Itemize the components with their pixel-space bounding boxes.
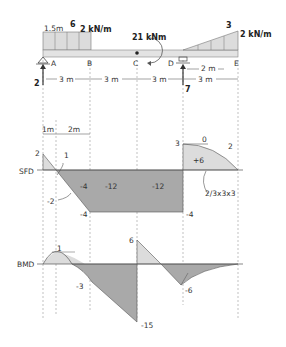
sfd-area-cd1: -12 xyxy=(105,182,117,191)
sfd-a-top: 2 xyxy=(35,149,40,158)
udl-intensity-label: 2 kN/m xyxy=(80,25,112,34)
bmd-max-pos: 1 xyxy=(57,244,62,253)
sfd-area-1: 1 xyxy=(64,151,69,160)
sfd-area-de: +6 xyxy=(193,156,204,165)
point-c-label: C xyxy=(133,59,138,68)
triangular-length-label: 2 m xyxy=(201,64,215,73)
sfd-dim-1m: 1m xyxy=(42,125,54,134)
triangular-load xyxy=(183,31,238,50)
bmd-diagram xyxy=(37,240,243,322)
bmd-c-bottom: -15 xyxy=(141,321,153,330)
sfd-parabola-note: 2/3x3x3 xyxy=(205,189,236,198)
sfd-slope-zero: 0 xyxy=(202,135,207,144)
point-d-label: D xyxy=(168,59,174,68)
sfd-diagram xyxy=(37,134,243,212)
bmd-b-value: -3 xyxy=(76,282,84,291)
sfd-area-cd2: -12 xyxy=(152,182,164,191)
beam-diagram: 1.5m 6 2 kN/m 21 kNm 3 2 kN/m A B C D E … xyxy=(0,0,286,347)
bmd-title: BMD xyxy=(17,260,35,269)
beam-body xyxy=(43,50,238,57)
point-c-marker xyxy=(135,51,139,55)
triangular-intensity-label: 2 kN/m xyxy=(240,30,272,39)
udl-resultant-label: 6 xyxy=(70,20,76,29)
sfd-area-bc: -4 xyxy=(80,182,88,191)
sfd-d-bottom: -4 xyxy=(186,210,194,219)
sfd-dim-2m: 2m xyxy=(68,125,80,134)
point-e-label: E xyxy=(234,59,239,68)
span-1-label: 3 m xyxy=(59,75,73,84)
span-4-label: 3 m xyxy=(198,75,212,84)
sfd-title: SFD xyxy=(19,167,34,176)
udl-length-label: 1.5m xyxy=(44,24,63,33)
point-a-label: A xyxy=(51,59,57,68)
triangular-resultant-label: 3 xyxy=(226,21,232,30)
sfd-area-2: -2 xyxy=(47,197,55,206)
reaction-d-label: 7 xyxy=(185,85,191,94)
span-3-label: 3 m xyxy=(152,75,166,84)
sfd-e-slope: 2 xyxy=(228,142,233,151)
reaction-a-label: 2 xyxy=(34,79,40,88)
bmd-c-top: 6 xyxy=(129,236,134,245)
sfd-d-top: 3 xyxy=(175,139,180,148)
moment-label: 21 kNm xyxy=(132,33,166,42)
bmd-d-value: -6 xyxy=(185,286,193,295)
sfd-b-end: -4 xyxy=(80,210,88,219)
span-2-label: 3 m xyxy=(104,75,118,84)
point-b-label: B xyxy=(87,59,92,68)
